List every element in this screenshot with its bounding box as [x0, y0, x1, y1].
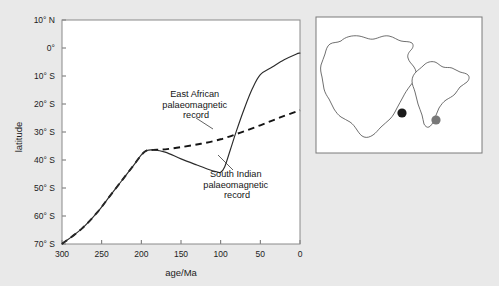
x-tick-label: 300: [55, 249, 69, 259]
plot-area: 300250200150100500 10° N0°10° S20° S30° …: [34, 15, 303, 259]
x-tick-label: 250: [95, 249, 109, 259]
x-tick-label: 0: [298, 249, 303, 259]
y-tick-label: 50° S: [34, 183, 55, 193]
y-tick-label: 10° N: [34, 15, 55, 25]
y-tick-label: 10° S: [34, 71, 55, 81]
y-axis-title: latitude: [13, 122, 24, 153]
y-tick-label: 60° S: [34, 211, 55, 221]
south-indian-site-marker: [431, 115, 440, 124]
east-african-site-marker: [397, 108, 406, 117]
x-tick-label: 150: [174, 249, 188, 259]
figure-container: 300250200150100500 10° N0°10° S20° S30° …: [0, 0, 499, 286]
x-tick-label: 50: [256, 249, 266, 259]
x-axis-title: age/Ma: [165, 267, 197, 278]
x-tick-label: 100: [214, 249, 228, 259]
y-tick-label: 20° S: [34, 99, 55, 109]
y-tick-label: 0°: [47, 43, 55, 53]
y-tick-label: 40° S: [34, 155, 55, 165]
y-tick-label: 30° S: [34, 127, 55, 137]
x-tick-label: 200: [134, 249, 148, 259]
y-tick-label: 70° S: [34, 239, 55, 249]
locality-map: [316, 17, 482, 153]
palaeolatitude-chart: 300250200150100500 10° N0°10° S20° S30° …: [0, 0, 499, 286]
